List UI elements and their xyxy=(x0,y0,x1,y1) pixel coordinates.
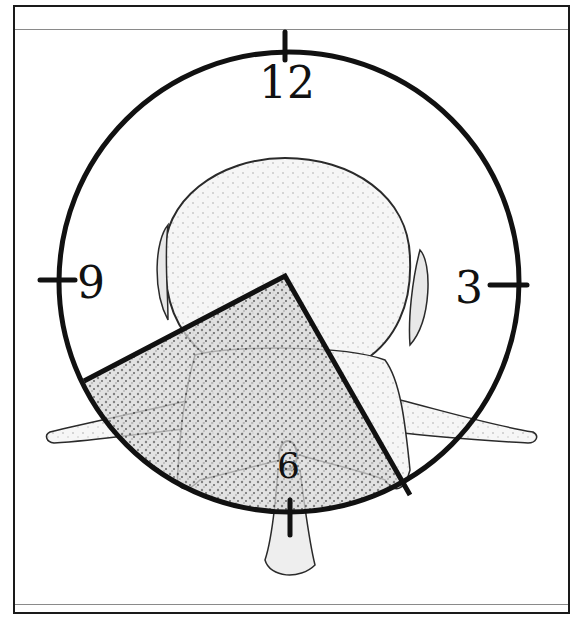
clock-label-12: 12 xyxy=(259,57,315,108)
clock-label-6: 6 xyxy=(277,445,300,486)
right-body-lip xyxy=(409,250,428,345)
vertebra-clock-diagram: 12 3 9 6 xyxy=(0,0,585,627)
right-transverse-process xyxy=(395,400,537,443)
clock-label-9: 9 xyxy=(77,257,105,308)
clock-label-3: 3 xyxy=(455,262,483,313)
left-body-lip xyxy=(157,225,168,320)
